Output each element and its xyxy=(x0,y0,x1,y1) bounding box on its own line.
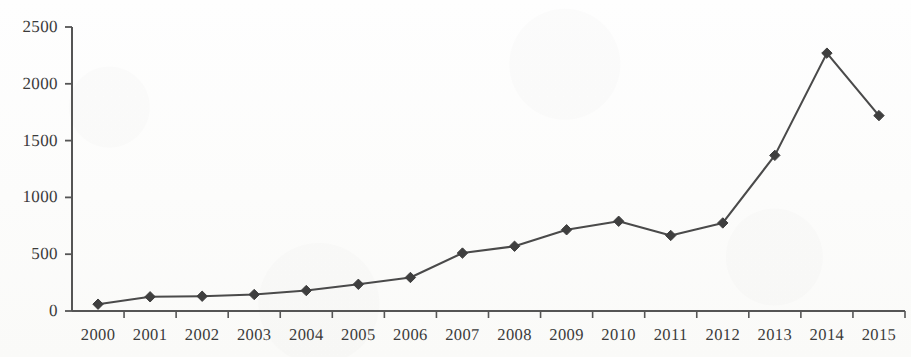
data-point-marker xyxy=(197,291,207,301)
data-point-marker xyxy=(561,225,571,235)
x-tick-label: 2004 xyxy=(289,325,324,345)
data-point-marker xyxy=(145,292,155,302)
y-tick-label: 1500 xyxy=(0,131,58,151)
x-tick-label: 2008 xyxy=(497,325,532,345)
x-tick-label: 2006 xyxy=(393,325,428,345)
x-tick-label: 2015 xyxy=(862,325,897,345)
data-point-marker xyxy=(353,279,363,289)
x-tick-label: 2005 xyxy=(341,325,376,345)
data-point-marker xyxy=(457,248,467,258)
x-tick-label: 2001 xyxy=(133,325,168,345)
y-axis-ticks xyxy=(65,27,72,311)
data-point-markers xyxy=(93,48,884,309)
x-axis-ticks xyxy=(124,311,905,318)
chart-plot-area: 05001000150020002500 2000200120022003200… xyxy=(0,0,911,357)
y-tick-label: 500 xyxy=(0,244,58,264)
line-chart-svg xyxy=(0,0,911,357)
x-tick-label: 2003 xyxy=(237,325,272,345)
data-point-marker xyxy=(613,216,623,226)
x-tick-label: 2007 xyxy=(445,325,480,345)
y-tick-label: 0 xyxy=(0,301,58,321)
data-point-marker xyxy=(666,230,676,240)
data-point-marker xyxy=(509,241,519,251)
x-tick-label: 2014 xyxy=(810,325,845,345)
chart-figure: 05001000150020002500 2000200120022003200… xyxy=(0,0,911,357)
y-tick-label: 2500 xyxy=(0,17,58,37)
y-tick-label: 2000 xyxy=(0,74,58,94)
data-point-marker xyxy=(249,289,259,299)
data-line-series-1 xyxy=(98,53,879,304)
data-point-marker xyxy=(405,272,415,282)
x-tick-label: 2010 xyxy=(601,325,636,345)
y-tick-label: 1000 xyxy=(0,187,58,207)
x-tick-label: 2009 xyxy=(549,325,584,345)
x-tick-label: 2012 xyxy=(705,325,740,345)
x-tick-label: 2002 xyxy=(185,325,220,345)
x-tick-label: 2000 xyxy=(81,325,116,345)
data-point-marker xyxy=(93,299,103,309)
x-tick-label: 2013 xyxy=(758,325,793,345)
x-tick-label: 2011 xyxy=(654,325,688,345)
data-point-marker xyxy=(301,285,311,295)
